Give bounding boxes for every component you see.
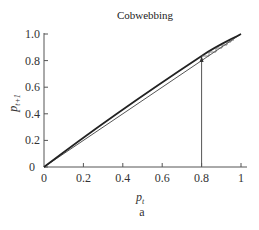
x-axis-label: pt [135, 190, 145, 206]
svg-text:0: 0 [41, 171, 47, 185]
cobweb-chart: Cobwebbing 0 0.2 0.4 0.6 0.8 1.0 0 0.2 0… [0, 0, 259, 230]
y-ticks [44, 34, 48, 167]
svg-text:0.6: 0.6 [155, 171, 170, 185]
panel-label: a [139, 205, 145, 219]
svg-text:0.8: 0.8 [194, 171, 209, 185]
svg-text:1: 1 [238, 171, 244, 185]
x-tick-labels: 0 0.2 0.4 0.6 0.8 1 [41, 171, 244, 185]
svg-text:0.2: 0.2 [25, 133, 40, 147]
svg-text:0.4: 0.4 [115, 171, 130, 185]
chart-title: Cobwebbing [117, 9, 174, 21]
svg-text:1.0: 1.0 [25, 27, 40, 41]
identity-line [44, 34, 241, 167]
svg-text:0.8: 0.8 [25, 54, 40, 68]
svg-text:0: 0 [29, 160, 35, 174]
y-tick-labels: 0 0.2 0.4 0.6 0.8 1.0 [25, 27, 40, 174]
svg-text:0.6: 0.6 [25, 80, 40, 94]
x-ticks [83, 163, 241, 167]
y-axis-label: pt+1 [6, 94, 22, 113]
svg-text:0.4: 0.4 [25, 107, 40, 121]
svg-text:0.2: 0.2 [76, 171, 91, 185]
